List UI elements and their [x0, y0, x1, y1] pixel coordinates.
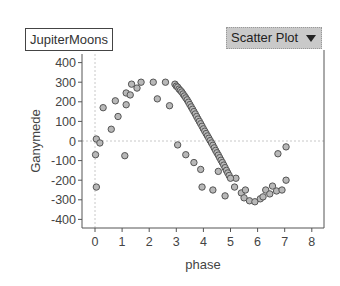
data-point[interactable] [162, 79, 168, 85]
data-point[interactable] [92, 152, 98, 158]
x-axis-label: phase [185, 257, 220, 272]
data-point[interactable] [115, 113, 121, 119]
data-point[interactable] [242, 187, 248, 193]
data-point[interactable] [108, 126, 114, 132]
data-point[interactable] [215, 168, 221, 174]
data-point[interactable] [227, 175, 233, 181]
data-point[interactable] [174, 142, 180, 148]
data-point[interactable] [222, 193, 228, 199]
y-tick-label: -100 [51, 154, 76, 168]
y-axis-label: Ganymede [28, 109, 43, 173]
data-point[interactable] [279, 187, 285, 193]
data-point[interactable] [150, 79, 156, 85]
data-point[interactable] [260, 194, 266, 200]
data-point[interactable] [93, 184, 99, 190]
data-point[interactable] [127, 92, 133, 98]
data-point[interactable] [112, 98, 118, 104]
data-point[interactable] [199, 184, 205, 190]
x-tick-label: 4 [200, 235, 207, 249]
y-tick-label: -200 [51, 174, 76, 188]
data-point[interactable] [197, 166, 203, 172]
y-tick-label: 100 [55, 115, 76, 129]
data-point[interactable] [97, 140, 103, 146]
data-point[interactable] [267, 191, 273, 197]
data-point[interactable] [283, 177, 289, 183]
x-tick-label: 8 [308, 235, 315, 249]
x-tick-label: 0 [92, 235, 99, 249]
scatter-chart: 4003002001000-100-200-300-400012345678ph… [0, 0, 340, 286]
data-point[interactable] [231, 184, 237, 190]
y-tick-label: 200 [55, 95, 76, 109]
x-tick-label: 3 [173, 235, 180, 249]
y-tick-label: 400 [55, 56, 76, 70]
data-point[interactable] [138, 79, 144, 85]
x-tick-label: 2 [146, 235, 153, 249]
data-point[interactable] [134, 85, 140, 91]
data-point[interactable] [166, 103, 172, 109]
y-tick-label: -300 [51, 193, 76, 207]
data-point[interactable] [210, 187, 216, 193]
data-point[interactable] [183, 152, 189, 158]
data-point[interactable] [100, 104, 106, 110]
data-point[interactable] [191, 159, 197, 165]
x-tick-label: 6 [254, 235, 261, 249]
data-point[interactable] [123, 102, 129, 108]
y-tick-label: -400 [51, 213, 76, 227]
x-tick-label: 1 [119, 235, 126, 249]
y-tick-label: 300 [55, 76, 76, 90]
data-point[interactable] [283, 144, 289, 150]
x-tick-label: 5 [227, 235, 234, 249]
data-point[interactable] [122, 153, 128, 159]
x-tick-label: 7 [281, 235, 288, 249]
y-tick-label: 0 [69, 135, 76, 149]
data-point[interactable] [154, 96, 160, 102]
data-point[interactable] [275, 151, 281, 157]
